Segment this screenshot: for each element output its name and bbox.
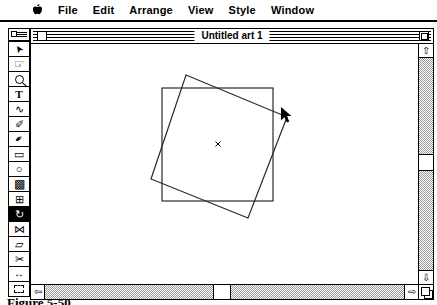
artwork-canvas[interactable] <box>31 44 419 286</box>
tool-reflect[interactable]: ⋈ <box>9 221 29 236</box>
figure-caption: Figure 5-50 <box>7 295 71 305</box>
type-icon: T <box>15 89 22 100</box>
scroll-up-icon: ⇧ <box>422 46 430 56</box>
horizontal-scrollbar[interactable]: ⇦ ⇨ <box>31 284 418 299</box>
vertical-scroll-thumb[interactable] <box>418 154 434 171</box>
blend-icon: ▩ <box>14 178 25 190</box>
tool-autotrace[interactable]: ✐ <box>9 116 29 131</box>
oval-icon: ○ <box>16 164 23 175</box>
menu-item-style[interactable]: Style <box>229 4 256 16</box>
rotate-icon: ↻ <box>15 209 24 220</box>
cursor-arrow <box>281 107 291 123</box>
scroll-down-icon: ⇩ <box>422 273 430 283</box>
scroll-right-button[interactable]: ⇨ <box>404 285 418 299</box>
tool-measure[interactable]: ↔ <box>9 266 29 281</box>
tool-selection-arrow[interactable]: ➤ <box>9 41 29 56</box>
window-title: Untitled art 1 <box>194 29 269 43</box>
window-title-bar[interactable]: Untitled art 1 <box>31 29 433 44</box>
scissors-icon: ✂ <box>15 254 24 265</box>
scroll-up-button[interactable]: ⇧ <box>419 44 433 58</box>
palette-close-box[interactable] <box>11 31 17 37</box>
menu-item-window[interactable]: Window <box>271 4 314 16</box>
apple-menu[interactable] <box>32 4 43 17</box>
apple-logo-icon <box>32 4 43 17</box>
tool-pen[interactable]: ✒ <box>9 131 29 146</box>
scroll-down-button[interactable]: ⇩ <box>419 270 433 284</box>
tool-type[interactable]: T <box>9 86 29 101</box>
palette-title-bar[interactable] <box>9 29 29 41</box>
close-box[interactable] <box>37 31 47 41</box>
tool-scissors[interactable]: ✂ <box>9 251 29 266</box>
page-icon <box>14 285 24 293</box>
reflect-icon: ⋈ <box>14 224 25 235</box>
rectangle-icon: ▭ <box>14 149 24 160</box>
menu-item-arrange[interactable]: Arrange <box>129 4 173 16</box>
tool-freehand[interactable]: ∿ <box>9 101 29 116</box>
horizontal-scroll-track[interactable] <box>45 285 404 299</box>
tool-rotate[interactable]: ↻ <box>9 206 29 221</box>
menu-item-edit[interactable]: Edit <box>93 4 115 16</box>
menu-item-view[interactable]: View <box>188 4 214 16</box>
menu-bar: FileEditArrangeViewStyleWindow <box>0 0 437 22</box>
vertical-scroll-track[interactable] <box>419 58 433 270</box>
selection-arrow-icon: ➤ <box>13 43 26 55</box>
tool-palette: ➤☞T∿✐✒▭○▩⊞↻⋈▱✂↔ <box>8 28 30 297</box>
tool-rectangle[interactable]: ▭ <box>9 146 29 161</box>
rotated-square[interactable] <box>151 75 287 218</box>
shear-icon: ▱ <box>15 239 23 250</box>
measure-icon: ↔ <box>14 269 24 279</box>
horizontal-scroll-thumb[interactable] <box>213 284 231 300</box>
tool-blend[interactable]: ▩ <box>9 176 29 191</box>
tool-page[interactable] <box>9 281 29 296</box>
artboard-area[interactable] <box>31 44 418 284</box>
autotrace-icon: ✐ <box>15 119 24 130</box>
tool-zoom[interactable] <box>9 71 29 86</box>
hand-icon: ☞ <box>14 58 25 70</box>
freehand-icon: ∿ <box>15 104 24 115</box>
tool-hand[interactable]: ☞ <box>9 56 29 71</box>
tool-scale[interactable]: ⊞ <box>9 191 29 206</box>
menu-item-file[interactable]: File <box>58 4 78 16</box>
vertical-scrollbar[interactable]: ⇧ ⇩ <box>418 44 433 284</box>
document-window: Untitled art 1 ⇧ ⇩ ⇦ ⇨ <box>30 28 434 300</box>
scroll-right-icon: ⇨ <box>408 287 416 297</box>
scale-icon: ⊞ <box>15 194 24 205</box>
pen-icon: ✒ <box>13 133 26 146</box>
window-grow-box[interactable] <box>418 284 433 299</box>
zoom-icon <box>15 75 24 84</box>
tool-oval[interactable]: ○ <box>9 161 29 176</box>
zoom-box[interactable] <box>419 31 429 41</box>
tool-shear[interactable]: ▱ <box>9 236 29 251</box>
